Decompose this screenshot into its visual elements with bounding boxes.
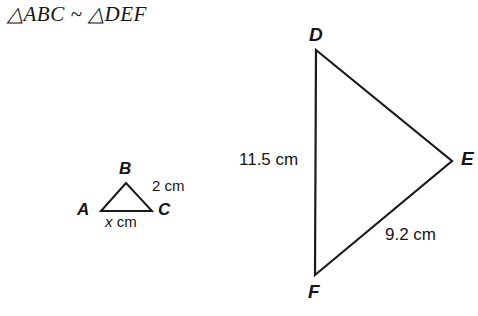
- geometry-figure-canvas: △ABC ~ △DEF A B C 2 cm x cm D E F 11.5 c…: [0, 0, 478, 316]
- side-label-ac-value: x: [105, 213, 113, 230]
- side-label-ac-unit: cm: [117, 213, 137, 230]
- side-label-df: 11.5 cm: [239, 150, 298, 170]
- small-triangle-abc-outline: [101, 183, 152, 211]
- vertex-label-c: C: [158, 200, 170, 220]
- side-label-ac: x cm: [105, 213, 137, 230]
- vertex-label-d: D: [309, 24, 323, 46]
- vertex-label-a: A: [77, 200, 89, 220]
- vertex-label-b: B: [119, 159, 131, 179]
- side-label-fe: 9.2 cm: [385, 225, 436, 245]
- side-label-bc: 2 cm: [152, 177, 185, 194]
- vertex-label-e: E: [461, 148, 474, 170]
- vertex-label-f: F: [308, 281, 320, 303]
